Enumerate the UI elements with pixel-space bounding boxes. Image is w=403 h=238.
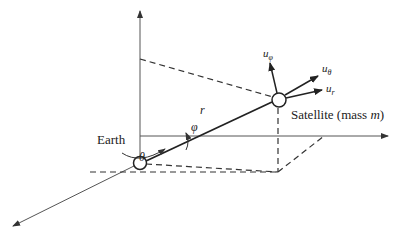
satellite-label: Satellite (mass m) <box>291 107 384 122</box>
dashed-ground-projection <box>146 164 278 172</box>
radius-label: r <box>200 103 205 117</box>
earth-label: Earth <box>97 132 126 147</box>
unit-vector-phi-arrow <box>270 63 277 93</box>
unit-vector-r-label: ur <box>326 82 336 97</box>
unit-vector-phi-label: uφ <box>263 47 274 62</box>
phi-label: φ <box>191 120 198 134</box>
dashed-y-parallel <box>278 136 324 172</box>
unit-vector-theta-label: uθ <box>322 62 332 77</box>
theta-label: θ <box>139 150 145 164</box>
radius-line <box>146 102 272 161</box>
satellite-circle <box>272 93 286 107</box>
spherical-coordinates-diagram: Earth r φ θ Satellite (mass m) uφ uθ ur <box>0 0 403 238</box>
dashed-z-projection <box>140 59 273 97</box>
